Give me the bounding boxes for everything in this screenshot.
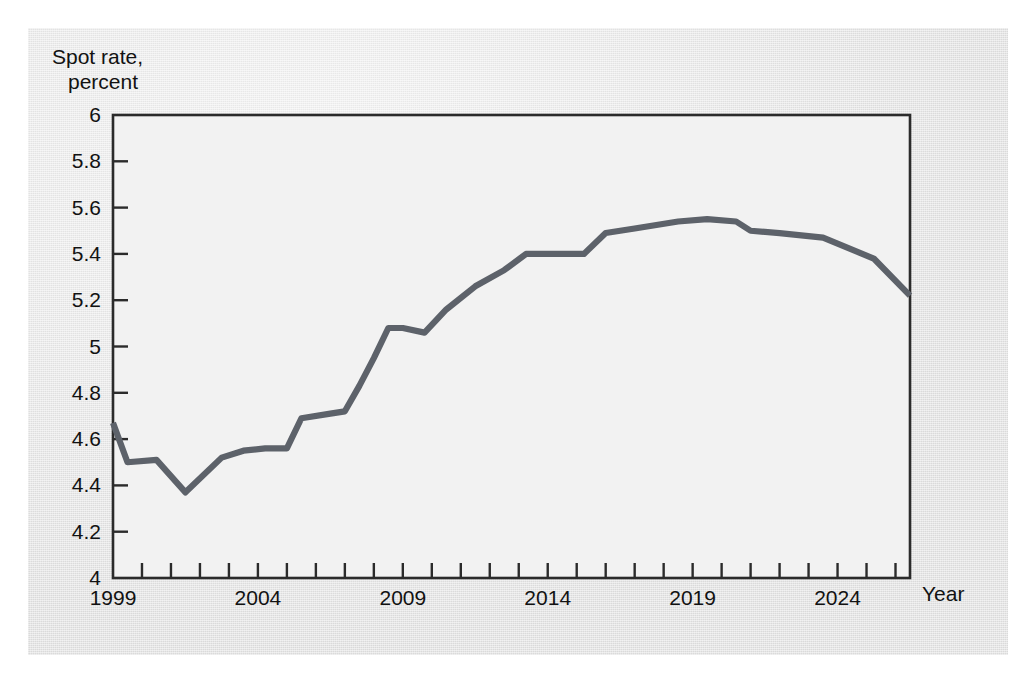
plot-background [113, 115, 910, 578]
x-tick-label: 2004 [235, 586, 282, 610]
y-tick-label: 4 [0, 566, 101, 590]
y-tick-label: 4.2 [0, 520, 101, 544]
y-tick-label: 5.4 [0, 242, 101, 266]
y-tick-label: 5.8 [0, 149, 101, 173]
x-tick-label: 2014 [524, 586, 571, 610]
x-axis-title: Year [922, 581, 964, 606]
figure-page: Spot rate,percent Year 44.24.44.64.855.2… [0, 0, 1035, 681]
x-tick-label: 2009 [379, 586, 426, 610]
x-tick-label: 2024 [814, 586, 861, 610]
y-tick-label: 6 [0, 103, 101, 127]
x-tick-label: 1999 [90, 586, 137, 610]
y-axis-title-line2: percent [52, 69, 143, 94]
x-tick-label: 2019 [669, 586, 716, 610]
y-tick-label: 5 [0, 335, 101, 359]
line-chart: Spot rate,percent Year 44.24.44.64.855.2… [0, 0, 1035, 681]
y-tick-label: 4.8 [0, 381, 101, 405]
y-axis-title-line1: Spot rate, [52, 45, 143, 68]
plot-svg [0, 0, 1035, 681]
y-tick-label: 5.6 [0, 196, 101, 220]
y-tick-label: 5.2 [0, 288, 101, 312]
y-tick-label: 4.6 [0, 427, 101, 451]
y-tick-label: 4.4 [0, 473, 101, 497]
y-axis-title: Spot rate,percent [52, 44, 143, 94]
